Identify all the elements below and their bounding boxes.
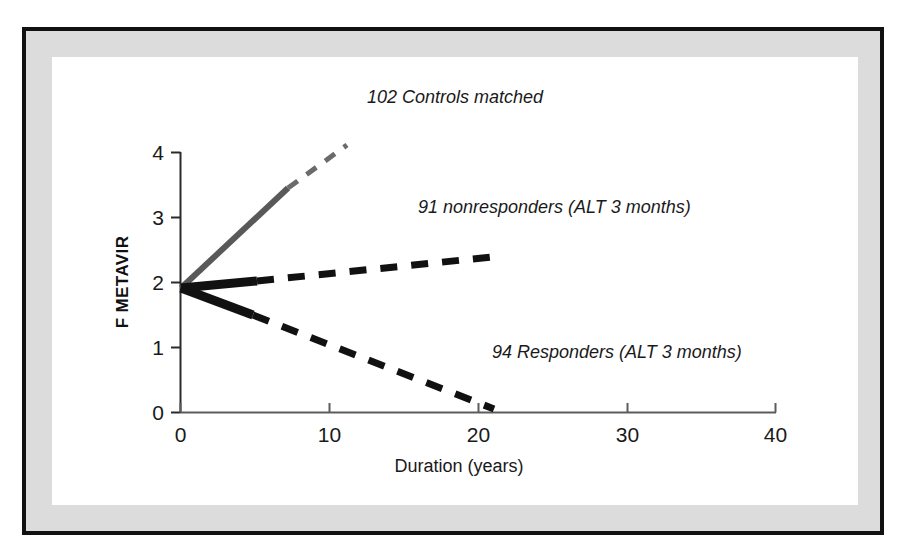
figure-root: 102 Controls matched xyxy=(0,0,907,559)
plot-white-card xyxy=(52,57,858,505)
